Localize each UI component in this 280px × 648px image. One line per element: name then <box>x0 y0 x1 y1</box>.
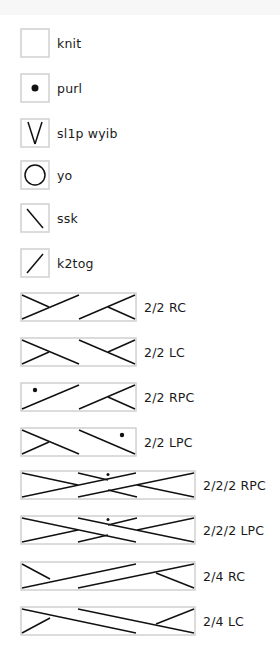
legend-item-yo: yo <box>20 160 72 190</box>
legend-label: 2/4 RC <box>203 569 245 584</box>
purl-dot <box>107 518 110 521</box>
slash-icon <box>20 248 50 278</box>
legend-item-2-2-rpc: 2/2 RPC <box>20 382 194 412</box>
legend-item-2-2-2-lpc: 2/2/2 LPC <box>20 515 264 545</box>
cable-left-icon <box>20 337 137 367</box>
cable-left-purl-icon <box>20 427 137 457</box>
legend-item-purl: purl <box>20 73 82 103</box>
symbol-box <box>21 29 49 57</box>
legend-item-2-2-lc: 2/2 LC <box>20 337 185 367</box>
v-icon <box>20 118 50 148</box>
cable-right-icon <box>20 292 137 322</box>
legend-item-k2tog: k2tog <box>20 248 94 278</box>
purl-dot <box>32 85 39 92</box>
legend-label: purl <box>57 81 82 96</box>
legend-label: 2/2 LC <box>144 345 185 360</box>
legend-item-sl1p-wyib: sl1p wyib <box>20 118 118 148</box>
legend-label: 2/2 RPC <box>144 390 194 405</box>
legend-item-2-2-2-rpc: 2/2/2 RPC <box>20 470 266 500</box>
legend-label: ssk <box>57 211 78 226</box>
symbol-box <box>21 383 136 411</box>
legend-item-2-4-rc: 2/4 RC <box>20 561 245 591</box>
blank-icon <box>20 28 50 58</box>
legend-item-2-2-lpc: 2/2 LPC <box>20 427 193 457</box>
legend-label: 2/2/2 LPC <box>203 523 264 538</box>
cable-right-purl-icon <box>20 382 137 412</box>
dot-icon <box>20 73 50 103</box>
legend-item-2-2-rc: 2/2 RC <box>20 292 186 322</box>
circle-icon <box>20 160 50 190</box>
symbol-box <box>21 562 195 590</box>
legend-item-knit: knit <box>20 28 81 58</box>
legend-label: 2/4 LC <box>203 614 244 629</box>
legend-item-2-4-lc: 2/4 LC <box>20 606 244 636</box>
legend-label: 2/2/2 RPC <box>203 478 266 493</box>
cable-3way-right-purl-icon <box>20 470 196 500</box>
cable-2-4-left-icon <box>20 606 196 636</box>
legend-label: 2/2 LPC <box>144 435 193 450</box>
purl-dot <box>107 473 110 476</box>
legend-label: yo <box>57 168 72 183</box>
backslash-icon <box>20 203 50 233</box>
cable-2-4-right-icon <box>20 561 196 591</box>
legend-label: k2tog <box>57 256 94 271</box>
legend-item-ssk: ssk <box>20 203 78 233</box>
symbol-box <box>21 428 136 456</box>
top-band <box>0 0 280 15</box>
purl-dot <box>33 388 37 392</box>
legend-label: knit <box>57 36 81 51</box>
symbol-box <box>21 293 136 321</box>
cable-3way-left-purl-icon <box>20 515 196 545</box>
legend-label: 2/2 RC <box>144 300 186 315</box>
symbol-box <box>21 607 195 635</box>
symbol-box <box>21 338 136 366</box>
purl-dot <box>120 433 124 437</box>
legend-label: sl1p wyib <box>57 126 118 141</box>
